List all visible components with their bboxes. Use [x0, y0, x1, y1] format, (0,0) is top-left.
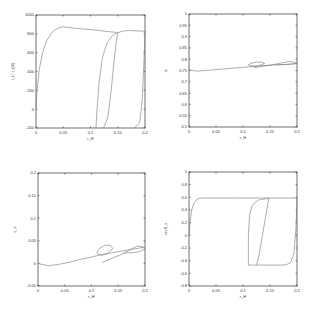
series-main [38, 247, 145, 266]
y-tick-label: -0.05 [27, 283, 37, 288]
y-tick-label: -0.2 [180, 245, 188, 250]
y-tick-label: 0.6 [181, 102, 187, 107]
y-tick-label: -200 [26, 125, 35, 130]
y-tick-label: 0 [34, 261, 37, 266]
y-tick-label: -0.6 [180, 271, 188, 276]
y-tick-label: 0.7 [181, 79, 187, 84]
x-tick-label: 0.05 [212, 288, 221, 293]
series-branch-1 [36, 27, 118, 108]
series-branch-2 [96, 33, 117, 128]
subplot-top-right: 00.050.10.150.20.50.550.60.650.70.750.80… [163, 11, 301, 140]
x-tick-label: 0.15 [266, 288, 275, 293]
y-tick-label: 800 [27, 31, 34, 36]
y-tick-label: -0.8 [180, 283, 188, 288]
y-tick-label: 200 [27, 88, 34, 93]
series-branch-2 [248, 198, 269, 265]
plot-frame [38, 173, 145, 286]
x-tick-label: 0 [188, 288, 191, 293]
x-tick-label: 0.15 [266, 129, 275, 134]
y-tick-label: 0 [185, 233, 188, 238]
subplot-top-left: 00.050.10.150.2-20002004006008001000r_Hr… [10, 12, 149, 141]
y-tick-label: 400 [27, 69, 34, 74]
x-tick-label: 0.2 [294, 129, 300, 134]
y-tick-label: 0.05 [28, 238, 37, 243]
series-loop-2 [102, 246, 145, 262]
y-tick-label: 1 [185, 11, 188, 16]
y-axis-label: sin θ_s [163, 223, 168, 236]
plot-frame [189, 172, 297, 286]
y-tick-label: 0.15 [28, 193, 37, 198]
y-tick-label: 0.65 [179, 91, 188, 96]
y-tick-label: -0.4 [180, 258, 188, 263]
y-tick-label: 0 [32, 107, 35, 112]
x-tick-label: 0.1 [88, 130, 94, 135]
y-axis-label: s_e [12, 226, 17, 233]
x-tick-label: 0.2 [294, 288, 300, 293]
x-tick-label: 0 [35, 130, 38, 135]
y-tick-label: 0.2 [181, 220, 187, 225]
x-tick-label: 0.1 [240, 288, 246, 293]
x-tick-label: 0.15 [114, 130, 123, 135]
x-tick-label: 0.2 [142, 130, 148, 135]
y-tick-label: 1 [185, 169, 188, 174]
series-branch-4 [118, 31, 145, 33]
y-tick-label: 0.75 [179, 68, 188, 73]
y-tick-label: 0.8 [181, 57, 187, 62]
y-tick-label: 600 [27, 50, 34, 55]
y-tick-label: 0.9 [181, 34, 187, 39]
y-tick-label: 0.55 [179, 113, 188, 118]
x-tick-label: 0 [188, 129, 191, 134]
figure: 00.050.10.150.2-20002004006008001000r_Hr… [0, 0, 316, 314]
x-axis-label: r_H [88, 294, 95, 299]
x-tick-label: 0.05 [59, 130, 68, 135]
y-tick-label: 0.4 [181, 207, 187, 212]
y-tick-label: 0.2 [30, 170, 36, 175]
y-tick-label: 0.95 [179, 23, 188, 28]
x-axis-label: r_H [87, 136, 94, 141]
series-branch-5 [257, 198, 298, 265]
series-branch-1 [189, 198, 297, 235]
y-tick-label: 0.5 [181, 124, 187, 129]
series-loop-1 [248, 62, 264, 66]
x-tick-label: 0.15 [114, 288, 123, 293]
x-tick-label: 0.1 [89, 288, 95, 293]
y-tick-label: 0.6 [181, 195, 187, 200]
y-tick-label: 1000 [25, 12, 35, 17]
subplot-bottom-right: 00.050.10.150.2-0.8-0.6-0.4-0.200.20.40.… [163, 169, 301, 299]
y-tick-label: 0.85 [179, 45, 188, 50]
y-tick-label: 0.8 [181, 182, 187, 187]
x-axis-label: r_H [240, 294, 247, 299]
y-axis-label: a [163, 69, 168, 72]
series-branch-4 [257, 198, 269, 265]
y-tick-label: 0.1 [30, 216, 36, 221]
series-branch-5 [134, 31, 145, 128]
y-axis-label: r_t / r_{t0} [10, 62, 15, 80]
x-axis-label: r_H [240, 135, 247, 140]
x-tick-label: 0.05 [212, 129, 221, 134]
x-tick-label: 0 [37, 288, 40, 293]
x-tick-label: 0.05 [61, 288, 70, 293]
x-tick-label: 0.2 [142, 288, 148, 293]
x-tick-label: 0.1 [240, 129, 246, 134]
subplot-bottom-left: 00.050.10.150.2-0.0500.050.10.150.2r_Hs_… [12, 170, 149, 299]
